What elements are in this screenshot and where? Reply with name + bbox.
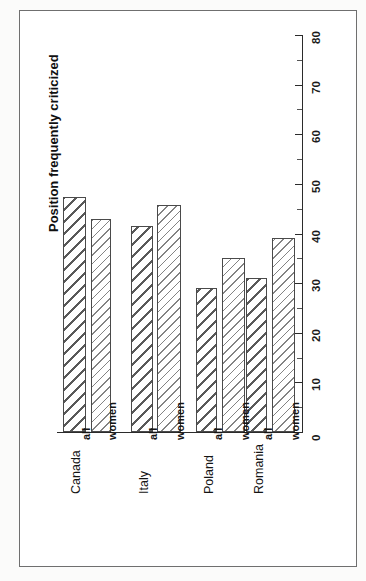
- bar-poland-all: [196, 288, 217, 432]
- bar-italy-women: [157, 205, 181, 432]
- axis-tick-major: [295, 283, 302, 284]
- axis-tick-minor: [297, 159, 302, 160]
- axis-tick-minor: [297, 109, 302, 110]
- chart-plot-area: Position frequently criticized 010203040…: [0, 0, 366, 581]
- axis-tick-minor: [297, 60, 302, 61]
- axis-tick-major: [295, 333, 302, 334]
- bar-canada-women: [91, 219, 111, 432]
- axis-tick-label: 50: [310, 180, 322, 193]
- axis-tick-major: [295, 184, 302, 185]
- axis-tick-minor: [297, 209, 302, 210]
- axis-tick-label: 70: [310, 81, 322, 94]
- axis-tick-label: 10: [310, 379, 322, 392]
- group-label-romania: Romania: [252, 444, 266, 494]
- group-label-poland: Poland: [202, 455, 216, 494]
- axis-tick-label: 20: [310, 329, 322, 342]
- bar-italy-all: [131, 226, 153, 432]
- series-label-women: women: [106, 402, 118, 440]
- series-label-women: women: [289, 402, 301, 440]
- chart-subtitle: Position frequently criticized: [46, 54, 61, 232]
- group-label-canada: Canada: [69, 450, 83, 494]
- axis-tick-label: 0: [310, 435, 322, 441]
- axis-tick-label: 80: [310, 31, 322, 44]
- axis-tick-minor: [297, 358, 302, 359]
- series-label-all: all: [262, 428, 274, 440]
- axis-tick-major: [295, 234, 302, 235]
- axis-tick-label: 60: [310, 130, 322, 143]
- series-label-all: all: [147, 428, 159, 440]
- value-axis-line: [302, 35, 303, 433]
- axis-tick-label: 40: [310, 230, 322, 243]
- axis-tick-major: [295, 382, 302, 383]
- axis-tick-minor: [297, 258, 302, 259]
- series-label-women: women: [174, 402, 186, 440]
- series-label-women: women: [239, 402, 251, 440]
- axis-tick-label: 30: [310, 279, 322, 292]
- bar-canada-all: [63, 197, 86, 432]
- axis-tick-major: [295, 85, 302, 86]
- axis-tick-major: [295, 134, 302, 135]
- axis-tick-major: [295, 35, 302, 36]
- series-label-all: all: [212, 428, 224, 440]
- series-label-all: all: [80, 428, 92, 440]
- group-label-italy: Italy: [137, 471, 151, 494]
- figure-page: Fig. 3 Readiness to Accept Different Typ…: [0, 0, 366, 581]
- axis-tick-minor: [297, 308, 302, 309]
